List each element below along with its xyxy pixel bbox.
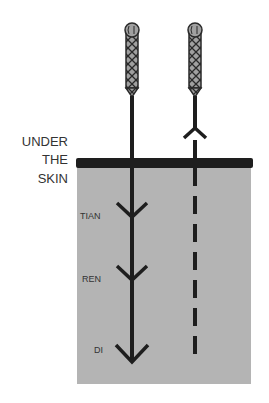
surface-label-line2: THE [42, 152, 68, 167]
surface-label-line1: UNDER [22, 134, 68, 149]
tissue-block [77, 160, 251, 384]
depth-label-tian: TIAN [80, 211, 101, 221]
needle-handle-icon [188, 23, 202, 97]
needling-depth-diagram: UNDER THE SKIN TIAN REN DI [0, 0, 269, 403]
skin-surface-line [76, 158, 253, 168]
arrow-up-icon [184, 128, 206, 138]
depth-label-ren: REN [82, 274, 101, 284]
surface-label-line3: SKIN [38, 171, 68, 186]
needle-handle-icon [125, 23, 139, 97]
depth-label-di: DI [94, 345, 103, 355]
